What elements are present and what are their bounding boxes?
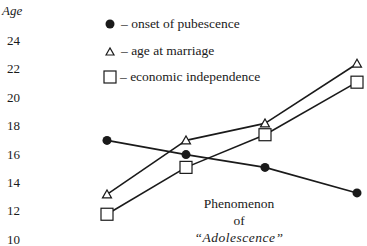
line-segment-economic-independence xyxy=(186,135,265,168)
data-point-onset-of-pubescence xyxy=(261,163,270,172)
open-triangle-icon xyxy=(106,48,114,55)
line-segment-age-at-marriage xyxy=(265,64,357,124)
data-point-age-at-marriage xyxy=(353,59,362,67)
legend-label: – onset of pubescence xyxy=(120,16,240,31)
series-lines xyxy=(107,64,357,215)
data-point-onset-of-pubescence xyxy=(353,188,362,197)
data-point-economic-independence xyxy=(180,161,192,173)
line-segment-onset-of-pubescence xyxy=(107,140,186,154)
annotation-line-2: of xyxy=(233,213,245,228)
y-tick-label: 10 xyxy=(7,232,20,246)
y-tick-label: 18 xyxy=(7,118,20,133)
data-point-economic-independence xyxy=(351,76,363,88)
open-square-icon xyxy=(104,71,116,83)
data-point-age-at-marriage xyxy=(103,190,112,198)
data-point-economic-independence xyxy=(259,129,271,141)
legend: – onset of pubescence – age at marriage … xyxy=(104,16,260,84)
line-segment-economic-independence xyxy=(107,167,186,214)
y-tick-label: 16 xyxy=(7,147,21,162)
data-point-age-at-marriage xyxy=(261,119,270,127)
filled-circle-icon xyxy=(106,20,115,29)
legend-label: – economic independence xyxy=(119,69,260,84)
legend-label: – age at marriage xyxy=(120,43,214,58)
chart: Age 2422201816141210 – onset of pubescen… xyxy=(0,0,367,246)
y-tick-label: 20 xyxy=(7,90,20,105)
annotation-line-3: “Adolescence” xyxy=(195,230,284,245)
y-tick-label: 14 xyxy=(7,175,21,190)
y-axis-ticks: 2422201816141210 xyxy=(7,33,21,246)
legend-item-economic-independence: – economic independence xyxy=(104,69,260,84)
annotation: Phenomenon of “Adolescence” xyxy=(195,196,284,245)
data-point-onset-of-pubescence xyxy=(182,150,191,159)
line-segment-age-at-marriage xyxy=(107,140,186,194)
y-tick-label: 12 xyxy=(7,203,20,218)
data-point-onset-of-pubescence xyxy=(103,136,112,145)
annotation-line-1: Phenomenon xyxy=(204,196,275,211)
line-segment-onset-of-pubescence xyxy=(186,155,265,168)
line-segment-onset-of-pubescence xyxy=(265,167,357,193)
line-segment-economic-independence xyxy=(265,82,357,135)
y-axis-label: Age xyxy=(1,3,22,18)
y-tick-label: 22 xyxy=(7,61,20,76)
line-segment-age-at-marriage xyxy=(186,123,265,140)
data-point-economic-independence xyxy=(101,208,113,220)
legend-item-age-at-marriage: – age at marriage xyxy=(106,43,214,58)
legend-item-onset-of-pubescence: – onset of pubescence xyxy=(106,16,240,31)
y-tick-label: 24 xyxy=(7,33,21,48)
